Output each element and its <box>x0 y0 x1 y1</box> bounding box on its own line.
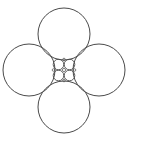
large-circle-right <box>73 44 125 96</box>
large-circle-bottom <box>38 81 90 133</box>
diagram-canvas <box>0 0 152 141</box>
gap-circle-right-gap <box>73 69 76 72</box>
large-circle-left <box>3 44 55 96</box>
center-circle <box>62 68 65 71</box>
center-circle <box>62 68 65 71</box>
gap-circle-left-gap <box>52 69 55 72</box>
small-circles <box>53 59 75 81</box>
gap-circles <box>52 58 76 82</box>
circle-packing-diagram <box>0 0 152 141</box>
large-circle-top <box>38 8 90 60</box>
large-circles <box>3 8 125 133</box>
